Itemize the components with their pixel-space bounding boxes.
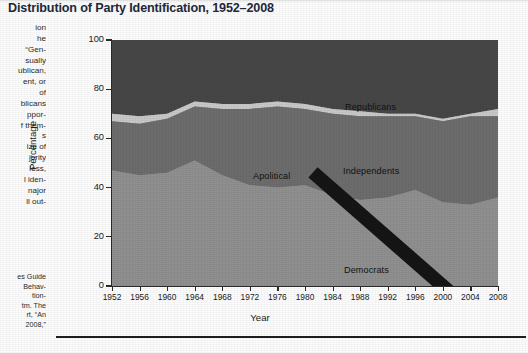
bottom-rule	[56, 336, 526, 338]
x-tick	[333, 286, 334, 291]
y-tick-label: 80	[76, 83, 104, 93]
x-tick-label: 1964	[180, 292, 210, 302]
y-tick-label: 40	[76, 182, 104, 192]
figure-page: Distribution of Party Identification, 19…	[0, 0, 528, 353]
x-tick	[277, 286, 278, 291]
x-tick	[415, 286, 416, 291]
y-axis-title: Percentage	[27, 101, 38, 191]
x-tick-label: 2008	[483, 292, 513, 302]
x-tick	[360, 286, 361, 291]
x-tick	[112, 286, 113, 291]
y-tick	[106, 138, 112, 139]
x-tick	[195, 286, 196, 291]
x-tick-label: 1988	[345, 292, 375, 302]
stacked-area-chart: Republicans Independents Democrats Apoli…	[0, 0, 528, 353]
x-tick	[250, 286, 251, 291]
y-tick	[106, 187, 112, 188]
x-tick	[388, 286, 389, 291]
y-tick-label: 20	[76, 231, 104, 241]
y-tick-label: 0	[76, 280, 104, 290]
x-tick-label: 1984	[318, 292, 348, 302]
x-tick-label: 2004	[455, 292, 485, 302]
x-tick	[305, 286, 306, 291]
x-tick-label: 1972	[235, 292, 265, 302]
series-label-republicans: Republicans	[345, 102, 396, 112]
series-label-independents: Independents	[343, 166, 399, 176]
x-tick-label: 1992	[373, 292, 403, 302]
x-tick	[222, 286, 223, 291]
y-axis-line	[111, 40, 112, 287]
x-tick	[167, 286, 168, 291]
x-tick-label: 1960	[152, 292, 182, 302]
x-tick	[443, 286, 444, 291]
x-tick-label: 1996	[400, 292, 430, 302]
x-tick	[470, 286, 471, 291]
x-tick	[498, 286, 499, 291]
y-tick-label: 60	[76, 132, 104, 142]
x-tick-label: 1956	[125, 292, 155, 302]
x-tick-label: 2000	[428, 292, 458, 302]
series-label-democrats: Democrats	[344, 265, 389, 275]
series-label-apolitical: Apolitical	[253, 171, 290, 181]
x-axis-title: Year	[230, 312, 290, 323]
x-tick-label: 1952	[97, 292, 127, 302]
x-tick	[140, 286, 141, 291]
y-tick	[106, 39, 112, 40]
y-tick	[106, 236, 112, 237]
x-tick-label: 1968	[207, 292, 237, 302]
plot-area: Republicans Independents Democrats Apoli…	[112, 40, 498, 286]
area-series-svg	[112, 40, 498, 286]
y-tick-label: 100	[76, 34, 104, 44]
x-tick-label: 1980	[290, 292, 320, 302]
x-tick-label: 1976	[262, 292, 292, 302]
y-tick	[106, 89, 112, 90]
